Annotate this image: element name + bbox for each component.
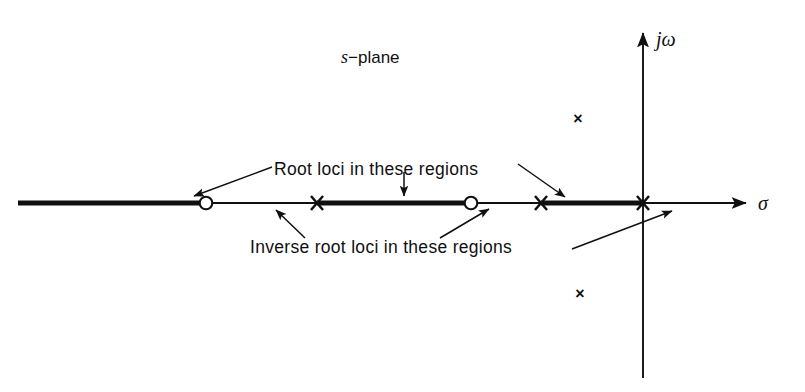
leader-line-inverse-middle xyxy=(440,209,489,238)
imaginary-axis-label: jω xyxy=(653,28,676,51)
leader-line-root-loci-left xyxy=(194,167,272,196)
leader-line-inverse-right xyxy=(572,211,672,249)
leader-line-root-loci-right xyxy=(518,164,565,197)
inverse-root-loci-annotation: Inverse root loci in these regions xyxy=(250,237,512,257)
complex-pole-marker-upper: × xyxy=(573,110,582,127)
s-plane-diagram: × × s−plane jω σ Root loci in these regi… xyxy=(0,0,805,392)
real-axis-label: σ xyxy=(758,192,769,214)
complex-pole-marker-lower: × xyxy=(575,285,584,302)
root-locus-figure: × × s−plane jω σ Root loci in these regi… xyxy=(0,0,805,392)
leader-line-inverse-left xyxy=(276,210,305,238)
plane-label: s−plane xyxy=(341,47,400,67)
zero-marker xyxy=(200,197,213,210)
plane-label-suffix: −plane xyxy=(348,48,400,67)
plane-label-variable: s xyxy=(341,47,348,67)
root-loci-annotation: Root loci in these regions xyxy=(274,159,478,179)
zero-marker xyxy=(465,197,478,210)
